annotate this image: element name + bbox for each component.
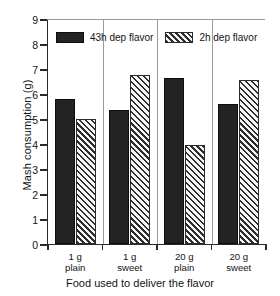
- x-tick-mark: [102, 244, 103, 250]
- x-tick-label-line: 1 g: [65, 251, 85, 262]
- y-tick-mark: [40, 69, 47, 70]
- group-separator: [212, 20, 213, 244]
- x-tick-mark: [47, 244, 48, 250]
- x-tick-label-group: 20 gplain: [174, 251, 194, 273]
- x-tick-mark: [156, 244, 157, 250]
- legend-label-43h: 43h dep flavor: [90, 32, 153, 43]
- y-tick-label: 8: [18, 40, 38, 51]
- x-tick-label-group: 20 gsweet: [226, 251, 251, 273]
- y-tick-label: 4: [18, 140, 38, 151]
- bar-43h-1: [55, 99, 75, 244]
- y-tick-mark: [40, 144, 47, 145]
- x-tick-mark: [211, 244, 212, 250]
- legend-item-2h: 2h dep flavor: [165, 32, 257, 43]
- y-tick-label: 2: [18, 190, 38, 201]
- y-tick-mark: [40, 219, 47, 220]
- x-tick-label-line: plain: [174, 262, 194, 273]
- x-tick-label-line: 1 g: [117, 251, 142, 262]
- bar-43h-4: [218, 104, 238, 244]
- x-axis-title: Food used to deliver the flavor: [0, 277, 280, 289]
- y-tick-label: 1: [18, 215, 38, 226]
- y-tick-label: 0: [18, 240, 38, 251]
- y-tick-label: 5: [18, 115, 38, 126]
- bar-43h-3: [164, 78, 184, 244]
- x-tick-label-line: plain: [65, 262, 85, 273]
- y-tick-label: 7: [18, 65, 38, 76]
- y-tick-label: 9: [18, 15, 38, 26]
- y-tick-mark: [40, 44, 47, 45]
- legend-swatch-hatch-icon: [165, 32, 193, 43]
- bar-43h-2: [109, 110, 129, 244]
- x-tick-mark: [265, 244, 266, 250]
- y-tick-mark: [40, 244, 47, 245]
- group-separator: [157, 20, 158, 244]
- legend-label-2h: 2h dep flavor: [199, 32, 257, 43]
- x-tick-label-line: 20 g: [226, 251, 251, 262]
- x-tick-label-group: 1 gplain: [65, 251, 85, 273]
- x-tick-label-line: sweet: [226, 262, 251, 273]
- x-tick-label-line: 20 g: [174, 251, 194, 262]
- legend-item-43h: 43h dep flavor: [56, 32, 153, 43]
- bar-2h-3: [185, 145, 205, 244]
- y-tick-label: 6: [18, 90, 38, 101]
- x-tick-label-group: 1 gsweet: [117, 251, 142, 273]
- bar-2h-4: [239, 80, 259, 244]
- y-tick-mark: [40, 19, 47, 20]
- plot-area: 0123456789 1 gplain1 gsweet20 gplain20 g…: [47, 20, 265, 245]
- y-tick-mark: [40, 119, 47, 120]
- bar-chart-figure: Mash consumption (g) 0123456789 1 gplain…: [0, 0, 280, 296]
- legend-swatch-solid-icon: [56, 32, 84, 43]
- chart-legend: 43h dep flavor 2h dep flavor: [56, 27, 256, 47]
- y-tick-mark: [40, 194, 47, 195]
- bar-2h-1: [76, 119, 96, 244]
- bar-2h-2: [130, 75, 150, 244]
- y-tick-label: 3: [18, 165, 38, 176]
- y-tick-mark: [40, 94, 47, 95]
- group-separator: [103, 20, 104, 244]
- y-tick-mark: [40, 169, 47, 170]
- x-tick-label-line: sweet: [117, 262, 142, 273]
